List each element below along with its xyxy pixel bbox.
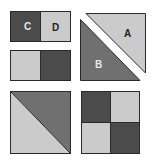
patch-top-left-dark bbox=[82, 92, 111, 123]
label-a: A bbox=[124, 28, 131, 39]
patch-top-right-light bbox=[111, 92, 140, 123]
patch-light bbox=[11, 51, 41, 81]
patch-bottom-left-light bbox=[82, 123, 111, 154]
four-patch-unit bbox=[82, 92, 140, 154]
label-b: B bbox=[95, 59, 102, 70]
quilt-diagram: C D A B bbox=[0, 0, 153, 164]
half-square-triangle-joined bbox=[11, 92, 71, 154]
label-c: C bbox=[24, 21, 31, 32]
label-d: D bbox=[52, 22, 59, 33]
two-patch-unit-plain bbox=[11, 51, 71, 81]
patch-dark bbox=[41, 51, 71, 81]
two-patch-unit-cd: C D bbox=[11, 12, 71, 42]
half-square-triangles-separated: A B bbox=[81, 14, 146, 81]
patch-bottom-right-dark bbox=[111, 123, 140, 154]
